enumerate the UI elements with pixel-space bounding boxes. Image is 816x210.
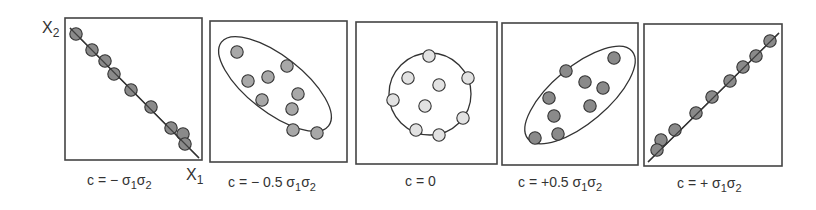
- data-point: [287, 124, 299, 136]
- data-point: [231, 46, 243, 58]
- data-point: [433, 79, 445, 91]
- data-point: [262, 71, 274, 83]
- data-point: [410, 124, 422, 136]
- data-point: [99, 55, 111, 67]
- data-point: [256, 94, 268, 106]
- panel-frame: [502, 23, 638, 165]
- data-point: [402, 72, 414, 84]
- y-axis-label: X2: [42, 19, 60, 40]
- data-point: [108, 68, 120, 80]
- data-point: [651, 144, 663, 156]
- panel-neg-full: c = − σ1σ2: [65, 18, 202, 191]
- data-point: [286, 103, 298, 115]
- panel-neg-half: c = − 0.5 σ1σ2: [204, 20, 347, 193]
- panel-caption: c = 0: [405, 173, 436, 189]
- panel-pos-full: c = + σ1σ2: [644, 24, 782, 194]
- data-point: [462, 72, 474, 84]
- panel-zero: c = 0: [356, 22, 497, 189]
- data-point: [706, 91, 718, 103]
- covariance-figure: c = − σ1σ2c = − 0.5 σ1σ2c = 0c = +0.5 σ1…: [0, 0, 816, 210]
- panel-caption: c = + σ1σ2: [677, 175, 742, 194]
- panel-pos-half: c = +0.5 σ1σ2: [502, 23, 650, 193]
- data-point: [242, 75, 254, 87]
- panel-caption: c = +0.5 σ1σ2: [518, 174, 602, 193]
- data-point: [584, 100, 596, 112]
- data-point: [764, 35, 776, 47]
- data-point: [529, 132, 541, 144]
- data-point: [737, 61, 749, 73]
- data-point: [597, 82, 609, 94]
- data-point: [145, 101, 157, 113]
- data-point: [669, 124, 681, 136]
- data-point: [387, 94, 399, 106]
- data-point: [579, 76, 591, 88]
- data-point: [608, 52, 620, 64]
- data-point: [311, 127, 323, 139]
- panel-caption: c = − 0.5 σ1σ2: [228, 174, 316, 193]
- panel-caption: c = − σ1σ2: [87, 172, 152, 191]
- data-point: [548, 110, 560, 122]
- data-point: [690, 107, 702, 119]
- data-point: [281, 60, 293, 72]
- data-point: [165, 122, 177, 134]
- x-axis-label: X1: [186, 166, 204, 187]
- data-point: [560, 65, 572, 77]
- data-point: [552, 128, 564, 140]
- panel-frame: [356, 22, 497, 164]
- data-point: [292, 88, 304, 100]
- data-point: [543, 92, 555, 104]
- panel-frame: [210, 21, 347, 162]
- data-point: [423, 50, 435, 62]
- data-point: [419, 100, 431, 112]
- data-point: [433, 129, 445, 141]
- data-point: [457, 112, 469, 124]
